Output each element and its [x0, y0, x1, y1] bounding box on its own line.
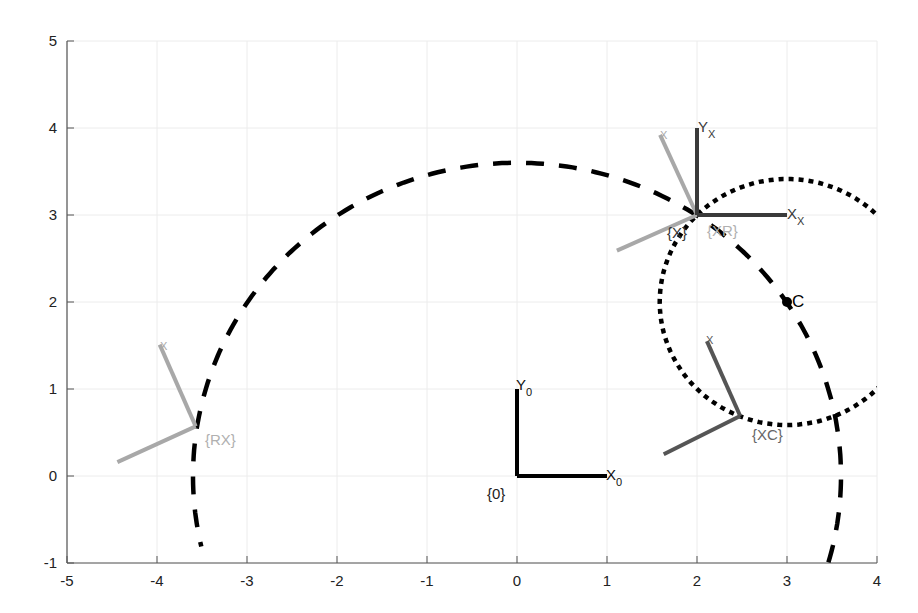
x-tick-label: 3 — [783, 572, 791, 589]
curves — [193, 163, 914, 563]
point-c-marker — [782, 297, 792, 307]
xr-frame-x-label: X — [660, 129, 668, 141]
x-tick-label: 4 — [873, 572, 881, 589]
x-tick-label: -5 — [60, 572, 73, 589]
frame-x-axis — [160, 345, 196, 427]
x-tick-label: 2 — [693, 572, 701, 589]
point-c-label: C — [792, 292, 804, 311]
xc-frame-label: {XC} — [752, 426, 783, 443]
y-tick-label: 4 — [49, 119, 57, 136]
y-tick-label: -1 — [44, 554, 57, 571]
chart: -5-4-3-2-101234-1012345 {0} Y0 X0 YX XX … — [0, 0, 918, 613]
x-tick-label: -3 — [240, 572, 253, 589]
x-tick-label: -4 — [150, 572, 163, 589]
grid-lines — [67, 41, 877, 563]
tick-labels: -5-4-3-2-101234-1012345 — [44, 32, 882, 589]
x-tick-label: 0 — [513, 572, 521, 589]
frame-x — [697, 128, 787, 215]
y-tick-label: 1 — [49, 380, 57, 397]
rx-frame-x-label: X — [160, 340, 168, 352]
xc-frame-x-label: X — [706, 334, 714, 346]
x-frame-y-label: YX — [698, 118, 716, 140]
origin-frame-label: {0} — [487, 485, 505, 502]
x-frame-label: {X} — [667, 224, 687, 241]
frame-x-axis — [660, 135, 697, 215]
y-tick-label: 5 — [49, 32, 57, 49]
rx-frame-label: {RX} — [205, 431, 236, 448]
x-tick-label: -2 — [330, 572, 343, 589]
y-tick-label: 3 — [49, 206, 57, 223]
x-tick-label: 1 — [603, 572, 611, 589]
frame-0 — [517, 389, 607, 476]
x-tick-label: -1 — [420, 572, 433, 589]
frame-labels: {0} Y0 X0 YX XX {X} {XR} X {RX} X {XC} X… — [160, 118, 805, 502]
y-tick-label: 2 — [49, 293, 57, 310]
frame-x-axis — [707, 341, 740, 416]
x-frame-x-label: XX — [787, 205, 805, 227]
origin-x-label: X0 — [606, 466, 622, 488]
frame-y-axis — [664, 416, 741, 454]
xr-frame-label: {XR} — [707, 222, 738, 239]
y-tick-label: 0 — [49, 467, 57, 484]
